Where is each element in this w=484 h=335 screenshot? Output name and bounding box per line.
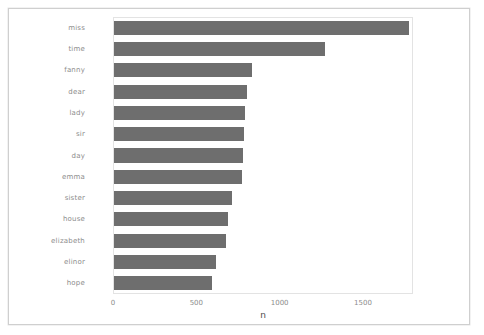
bar-day [114, 148, 243, 162]
bar-emma [114, 170, 242, 184]
y-axis-label-miss: miss [0, 24, 85, 32]
x-tick-0: 0 [111, 299, 115, 307]
bar-sir [114, 127, 244, 141]
y-axis-label-time: time [0, 45, 85, 53]
bar-miss [114, 21, 409, 35]
y-axis-label-dear: dear [0, 88, 85, 96]
figure-frame: misstimefannydearladysirdayemmasisterhou… [8, 8, 470, 325]
y-axis-label-elinor: elinor [0, 258, 85, 266]
bar-chart-plot: misstimefannydearladysirdayemmasisterhou… [9, 9, 469, 324]
bar-time [114, 42, 325, 56]
y-axis-label-emma: emma [0, 173, 85, 181]
y-axis-label-fanny: fanny [0, 66, 85, 74]
y-axis-label-day: day [0, 152, 85, 160]
y-axis-label-lady: lady [0, 109, 85, 117]
y-axis-label-sister: sister [0, 194, 85, 202]
y-axis-label-house: house [0, 215, 85, 223]
y-axis-label-sir: sir [0, 130, 85, 138]
bar-hope [114, 276, 212, 290]
bar-lady [114, 106, 245, 120]
bar-elizabeth [114, 234, 226, 248]
y-axis-label-elizabeth: elizabeth [0, 237, 85, 245]
y-axis-label-hope: hope [0, 279, 85, 287]
bar-sister [114, 191, 232, 205]
x-tick-500: 500 [190, 299, 203, 307]
bar-dear [114, 85, 247, 99]
bar-elinor [114, 255, 216, 269]
x-axis-title: n [113, 310, 413, 320]
bar-fanny [114, 63, 252, 77]
bar-house [114, 212, 228, 226]
x-tick-1000: 1000 [271, 299, 289, 307]
x-tick-1500: 1500 [354, 299, 372, 307]
